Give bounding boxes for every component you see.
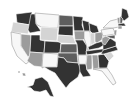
state-in <box>90 33 95 45</box>
us-choropleth-map <box>0 0 139 107</box>
state-ct <box>118 26 122 29</box>
state-wy <box>40 27 58 41</box>
state-nd <box>59 15 73 26</box>
state-co <box>44 41 61 53</box>
state-ak <box>27 77 54 97</box>
state-nm <box>42 53 58 68</box>
state-ms <box>86 55 92 70</box>
state-hi2 <box>22 73 26 76</box>
map-canvas <box>0 0 139 107</box>
state-ks <box>60 44 77 53</box>
state-pa <box>101 28 115 36</box>
state-az <box>27 52 43 67</box>
state-sd <box>58 26 73 36</box>
state-ny <box>103 19 119 28</box>
state-fl <box>93 68 116 85</box>
state-ne <box>57 35 76 44</box>
state-ar <box>78 55 87 64</box>
state-mt <box>35 13 59 28</box>
state-hi <box>18 71 20 73</box>
